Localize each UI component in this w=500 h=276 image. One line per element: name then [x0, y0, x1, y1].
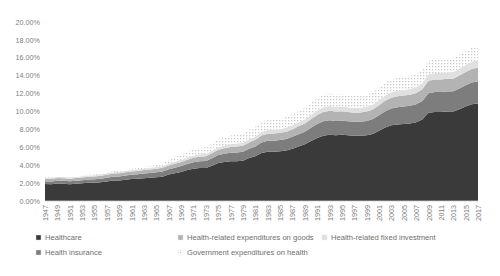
- x-tick-label: 2009: [425, 205, 434, 221]
- legend-label: Health-related fixed investment: [331, 233, 437, 242]
- y-tick-label: 10.00%: [16, 107, 41, 116]
- x-tick-label: 1999: [363, 205, 372, 221]
- y-tick-label: 2.00%: [20, 179, 41, 188]
- legend-swatch: [36, 235, 41, 240]
- x-tick-label: 1965: [152, 205, 161, 221]
- legend-swatch: [322, 235, 327, 240]
- x-tick-label: 2001: [375, 205, 384, 221]
- x-tick-label: 1975: [214, 205, 223, 221]
- legend-swatch: [178, 250, 183, 255]
- x-tick-label: 1995: [338, 205, 347, 221]
- x-tick-label: 2011: [437, 205, 446, 220]
- x-tick-label: 1961: [128, 205, 137, 221]
- y-tick-label: 6.00%: [20, 143, 41, 152]
- y-tick-label: 4.00%: [20, 161, 41, 170]
- x-tick-label: 2017: [474, 205, 483, 221]
- y-tick-label: 14.00%: [16, 71, 41, 80]
- x-tick-label: 1971: [189, 205, 198, 221]
- y-tick-label: 16.00%: [16, 53, 41, 62]
- x-tick-label: 1979: [239, 205, 248, 221]
- x-tick-label: 1977: [227, 205, 236, 221]
- x-tick-label: 1967: [165, 205, 174, 221]
- x-tick-label: 1957: [103, 205, 112, 221]
- x-tick-label: 1993: [326, 205, 335, 221]
- x-tick-label: 2015: [462, 205, 471, 221]
- x-tick-label: 1983: [264, 205, 273, 221]
- y-tick-label: 18.00%: [16, 36, 41, 45]
- x-tick-label: 1991: [313, 205, 322, 221]
- legend-swatch: [178, 235, 183, 240]
- x-tick-label: 1947: [41, 205, 50, 221]
- area-layers: [45, 46, 478, 201]
- legend-label: Healthcare: [45, 233, 82, 242]
- legend-label: Health insurance: [45, 248, 102, 257]
- x-tick-label: 2007: [412, 205, 421, 221]
- x-tick-label: 1997: [350, 205, 359, 221]
- x-tick-label: 1951: [66, 205, 75, 221]
- x-tick-label: 1987: [288, 205, 297, 221]
- x-tick-label: 1969: [177, 205, 186, 221]
- stacked-area-chart: 0.00%2.00%4.00%6.00%8.00%10.00%12.00%14.…: [0, 0, 500, 276]
- x-tick-label: 1985: [276, 205, 285, 221]
- x-axis-ticks: 1947194919511953195519571959196119631965…: [41, 205, 483, 221]
- y-tick-label: 20.00%: [16, 18, 41, 27]
- chart-container: 0.00%2.00%4.00%6.00%8.00%10.00%12.00%14.…: [0, 0, 500, 276]
- x-tick-label: 1953: [78, 205, 87, 221]
- x-tick-label: 1955: [90, 205, 99, 221]
- x-tick-label: 2005: [400, 205, 409, 221]
- x-tick-label: 1959: [115, 205, 124, 221]
- legend-label: Government expenditures on health: [187, 248, 308, 257]
- y-tick-label: 12.00%: [16, 89, 41, 98]
- y-axis-ticks: 0.00%2.00%4.00%6.00%8.00%10.00%12.00%14.…: [16, 18, 41, 206]
- legend-swatch: [36, 250, 41, 255]
- x-tick-label: 2013: [449, 205, 458, 221]
- legend-label: Health-related expenditures on goods: [187, 233, 314, 242]
- x-tick-label: 1949: [53, 205, 62, 221]
- chart-legend: HealthcareHealth insuranceHealth-related…: [36, 233, 437, 257]
- y-tick-label: 0.00%: [20, 197, 41, 206]
- x-tick-label: 1973: [202, 205, 211, 221]
- x-tick-label: 1981: [251, 205, 260, 221]
- y-tick-label: 8.00%: [20, 125, 41, 134]
- x-tick-label: 2003: [387, 205, 396, 221]
- x-tick-label: 1989: [301, 205, 310, 221]
- x-tick-label: 1963: [140, 205, 149, 221]
